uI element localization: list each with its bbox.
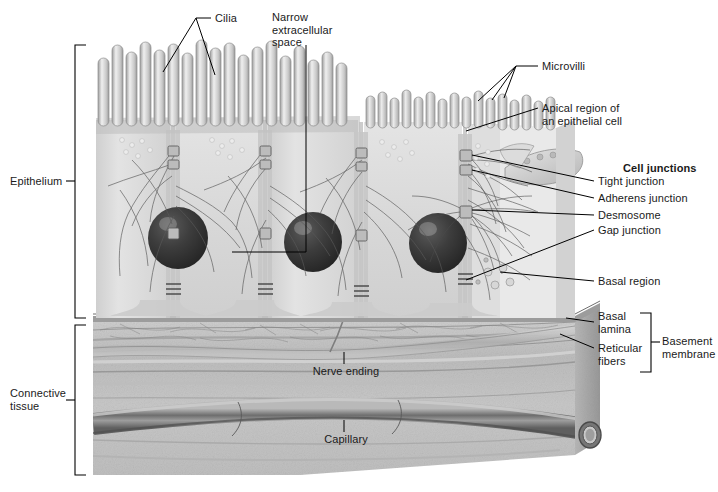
label-basement-membrane: Basement membrane [662, 335, 715, 360]
label-microvilli: Microvilli [542, 60, 585, 73]
label-narrow-extracellular-space: Narrow extracellular space [272, 11, 333, 49]
label-cell-junctions: Cell junctions [623, 162, 697, 175]
label-adherens-junction: Adherens junction [598, 192, 688, 205]
label-nerve-ending: Nerve ending [301, 365, 391, 378]
label-desmosome: Desmosome [598, 209, 661, 222]
label-gap-junction: Gap junction [598, 224, 661, 237]
label-capillary: Capillary [309, 433, 383, 446]
label-basal-region: Basal region [598, 275, 660, 288]
leader-microvilli-3 [504, 66, 516, 98]
capillary-lumen [579, 422, 601, 448]
epithelium-bracket [75, 45, 86, 318]
label-epithelium: Epithelium [10, 175, 62, 188]
label-reticular-fibers: Reticular fibers [598, 342, 642, 367]
label-basal-lamina: Basal lamina [598, 310, 631, 335]
connective-tissue-bracket [75, 325, 86, 475]
label-apical-region: Apical region of an epithelial cell [542, 102, 622, 127]
label-connective-tissue: Connective tissue [10, 387, 66, 412]
connective-tissue-block [93, 301, 601, 475]
label-tight-junction: Tight junction [598, 175, 664, 188]
leader-microvilli-1 [478, 66, 516, 101]
illustration [0, 0, 718, 492]
figure-canvas: Cilia Narrow extracellular space Microvi… [0, 0, 718, 492]
cilia [96, 40, 360, 134]
label-cilia: Cilia [215, 12, 237, 25]
